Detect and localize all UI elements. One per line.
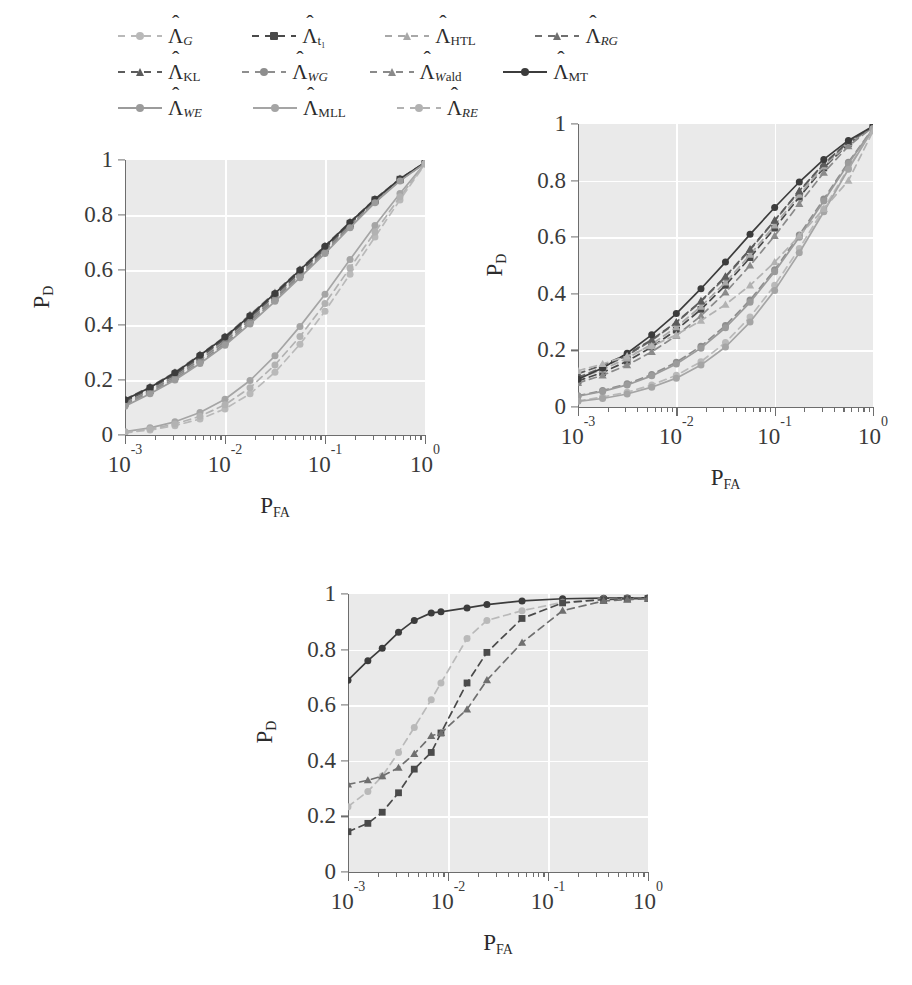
series-marker (559, 599, 566, 606)
series-marker (395, 629, 402, 636)
curve-layer (0, 0, 912, 985)
series-marker (464, 604, 471, 611)
series-marker (395, 749, 402, 756)
series-marker (364, 820, 371, 827)
series-marker (519, 607, 526, 614)
figure-root: ΛGΛt₁ΛHTLΛRGΛKLΛWGΛWaldΛMTΛWEΛMLLΛRE 10.… (0, 0, 912, 985)
series-marker (345, 677, 352, 684)
series-marker (379, 809, 386, 816)
series-marker (483, 617, 490, 624)
series-marker (483, 601, 490, 608)
series-marker (464, 635, 471, 642)
series-marker (519, 615, 526, 622)
panel-bottom: 10.80.60.40.2010-310-210-1100PFAPD (0, 0, 912, 985)
series-line (348, 599, 648, 785)
series-marker (428, 749, 435, 756)
series-line (348, 598, 648, 831)
series-marker (345, 803, 352, 810)
series-marker (411, 724, 418, 731)
series-marker (464, 680, 471, 687)
series-marker (364, 657, 371, 664)
series-marker (395, 789, 402, 796)
series-marker (379, 645, 386, 652)
series-marker (519, 597, 526, 604)
series-marker (428, 696, 435, 703)
series-marker (428, 609, 435, 616)
series-marker (345, 828, 352, 835)
series-marker (437, 679, 444, 686)
series-marker (364, 788, 371, 795)
series-marker (411, 766, 418, 773)
series-marker (437, 608, 444, 615)
series-line (348, 598, 648, 807)
series-marker (559, 607, 567, 614)
series-marker (411, 617, 418, 624)
series-marker (364, 776, 372, 783)
series-marker (394, 764, 402, 771)
series-marker (484, 649, 491, 656)
